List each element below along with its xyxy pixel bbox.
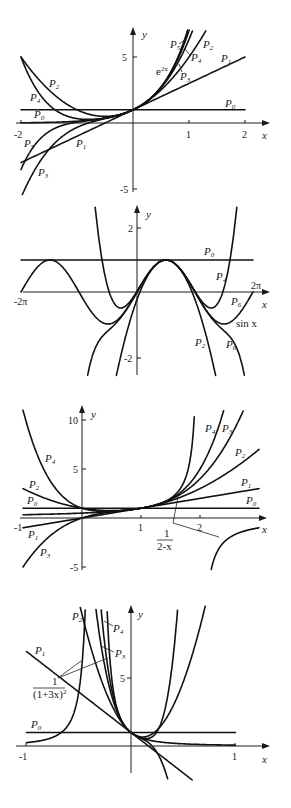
y-axis-label: y [90, 408, 96, 420]
y-tick-label: 5 [120, 673, 125, 684]
x-tick-label: -2π [14, 296, 27, 307]
curve-P5 [21, 31, 188, 170]
y-axis-arrow-icon [79, 405, 85, 413]
series-label-P4-left: P4 [44, 452, 56, 466]
series-label-P3: P3 [179, 70, 191, 84]
y-axis-arrow-icon [128, 605, 134, 613]
y-axis-arrow-icon [130, 27, 136, 35]
curve-f-right [107, 612, 235, 745]
x-tick-label: 1 [186, 129, 191, 140]
y-axis-arrow-icon [134, 205, 140, 213]
chart-panel-sinx: -2π 2π 2 -2 x y sin x P0 P4 P6 P2 P6 [0, 200, 291, 390]
y-tick-label: -5 [70, 562, 78, 573]
x-axis-arrow-icon [262, 120, 270, 126]
series-label-P3-left: P3 [39, 546, 51, 560]
y-tick-label: 2 [128, 223, 133, 234]
curve-e2x [21, 30, 188, 123]
series-label-P5-left: P5 [23, 137, 35, 151]
series-label-P4: P4 [190, 51, 202, 65]
chart-svg-inv1p3x2: -1 1 5 x y 1 (1+3x)2 P2 P4 P3 P1 P0 [0, 590, 291, 808]
x-axis-arrow-icon [262, 289, 270, 295]
x-tick-label: 1 [232, 751, 237, 762]
leader-line [184, 48, 190, 55]
series-label-P0-left: P0 [26, 494, 38, 508]
y-axis-label: y [141, 28, 147, 40]
chart-svg-sinx: -2π 2π 2 -2 x y sin x P0 P4 P6 P2 P6 [0, 200, 291, 390]
x-tick-label: 2π [251, 280, 261, 291]
y-axis-label: y [145, 208, 151, 220]
series-label-P1-left: P1 [27, 528, 38, 542]
series-label-P2-left: P2 [48, 77, 60, 91]
curve-P4 [95, 207, 237, 308]
series-label-P1-left: P1 [75, 137, 86, 151]
chart-panel-inv1p3x2: -1 1 5 x y 1 (1+3x)2 P2 P4 P3 P1 P0 [0, 590, 291, 808]
function-label-sinx: sin x [236, 317, 258, 329]
svg-text:(1+3x)2: (1+3x)2 [33, 688, 67, 701]
series-label-P6-lower: P6 [225, 338, 237, 352]
y-tick-label: 5 [122, 52, 127, 63]
series-label-P2-left: P2 [28, 478, 40, 492]
x-axis-arrow-icon [259, 515, 267, 521]
series-label-P1: P1 [240, 476, 251, 490]
x-axis-label: x [261, 129, 267, 141]
curve-P2 [80, 606, 205, 737]
series-label-P2: P2 [234, 446, 246, 460]
series-label-P4: P4 [204, 422, 216, 436]
series-label-P0: P0 [203, 245, 215, 259]
x-axis-arrow-icon [262, 743, 270, 749]
curve-P3 [22, 31, 192, 195]
series-label-P4: P4 [215, 270, 227, 284]
series-label-P2: P2 [194, 336, 206, 350]
series-label-P3: P3 [221, 422, 233, 436]
function-label-e2x: e2x [156, 65, 168, 77]
x-tick-label: 2 [242, 129, 247, 140]
x-tick-label: -2 [14, 129, 22, 140]
curve-inv2mx-right [211, 528, 259, 570]
series-label-P2: P2 [202, 38, 214, 52]
series-label-P5: P5 [169, 38, 181, 52]
x-axis-label: x [261, 298, 267, 310]
series-label-P0: P0 [245, 494, 257, 508]
y-tick-label: 5 [73, 464, 78, 475]
chart-panel-inv2mx: -1 1 2 10 5 -5 x y 1 2-x P4 P3 P2 P1 P0 … [0, 390, 291, 590]
series-label-P1: P1 [34, 644, 45, 658]
chart-svg-exp2x: -2 1 2 5 -5 x y e2x P5 P2 P4 P1 P3 P0 P2… [0, 0, 291, 200]
leader-line [58, 661, 81, 678]
series-label-P0: P0 [224, 97, 236, 111]
series-label-P1: P1 [220, 52, 231, 66]
curve-P4 [21, 30, 189, 119]
curve-P2 [23, 449, 259, 510]
series-label-P0: P0 [30, 718, 42, 732]
svg-text:1: 1 [164, 527, 170, 539]
series-label-P3-left: P3 [37, 166, 49, 180]
chart-panel-exp2x: -2 1 2 5 -5 x y e2x P5 P2 P4 P1 P3 P0 P2… [0, 0, 291, 200]
leader-line [101, 646, 114, 652]
chart-svg-inv2mx: -1 1 2 10 5 -5 x y 1 2-x P4 P3 P2 P1 P0 … [0, 390, 291, 590]
series-label-P6: P6 [230, 295, 242, 309]
x-tick-label: -1 [14, 522, 22, 533]
svg-text:2-x: 2-x [157, 540, 172, 552]
curves-group [23, 410, 259, 569]
x-tick-label: -1 [19, 751, 27, 762]
y-tick-label: 10 [68, 415, 78, 426]
function-label-inv2mx: 1 2-x [157, 527, 173, 552]
y-tick-label: -5 [120, 184, 128, 195]
series-label-P3: P3 [114, 647, 126, 661]
x-tick-label: 1 [138, 522, 143, 533]
svg-text:1: 1 [52, 675, 58, 687]
x-axis-label: x [261, 523, 267, 535]
y-tick-label: -2 [124, 353, 132, 364]
series-label-P4: P4 [112, 622, 124, 636]
x-axis-label: x [261, 753, 267, 765]
y-axis-label: y [137, 608, 143, 620]
leader-line [173, 497, 219, 537]
